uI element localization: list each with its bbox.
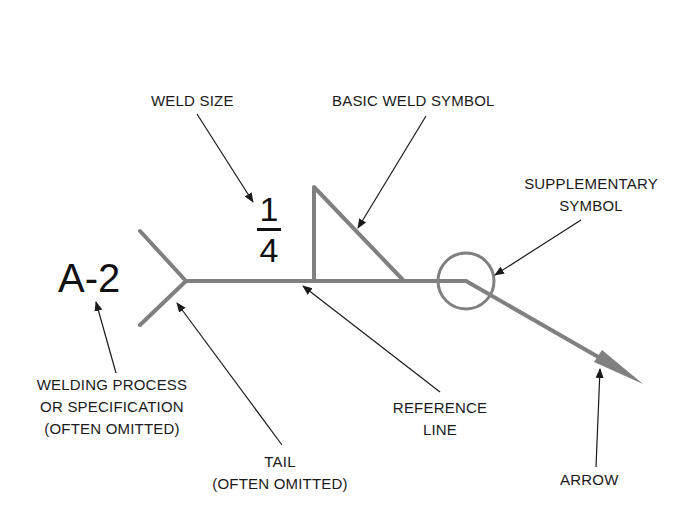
label-supplementary-symbol: SUPPLEMENTARY SYMBOL bbox=[511, 173, 671, 217]
label-tail: TAIL (OFTEN OMITTED) bbox=[198, 451, 362, 495]
label-reference-line: REFERENCE LINE bbox=[385, 397, 495, 441]
weld-size-denominator: 4 bbox=[260, 231, 279, 269]
weld-size-fraction: 1 4 bbox=[254, 192, 284, 267]
leader-weld-size bbox=[197, 114, 253, 202]
label-arrow: ARROW bbox=[560, 469, 619, 491]
weld-size-numerator: 1 bbox=[260, 190, 279, 228]
leader-basic-weld-symbol bbox=[358, 116, 426, 228]
tail bbox=[140, 231, 186, 325]
process-spec-value: A-2 bbox=[58, 256, 120, 301]
label-basic-weld-symbol: BASIC WELD SYMBOL bbox=[332, 90, 495, 112]
leader-reference-line bbox=[303, 286, 440, 392]
label-weld-size: WELD SIZE bbox=[151, 90, 234, 112]
leader-arrow bbox=[596, 369, 600, 467]
leader-welding-process bbox=[96, 302, 116, 373]
leader-supplementary-symbol bbox=[495, 220, 581, 275]
arrowhead bbox=[594, 350, 643, 384]
label-welding-process: WELDING PROCESS OR SPECIFICATION (OFTEN … bbox=[22, 374, 202, 440]
basic-weld-symbol-triangle bbox=[314, 187, 404, 281]
arrow-line bbox=[466, 281, 600, 358]
